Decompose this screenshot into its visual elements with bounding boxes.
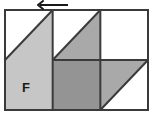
figure-container: F Rectangle divided into a 3 by 2 grid o… xyxy=(0,0,153,120)
region-label-f: F xyxy=(22,80,30,95)
cell-bottom-middle-fill xyxy=(53,60,101,110)
dissection-diagram: F xyxy=(0,0,153,120)
left-arrow-icon xyxy=(38,1,68,9)
